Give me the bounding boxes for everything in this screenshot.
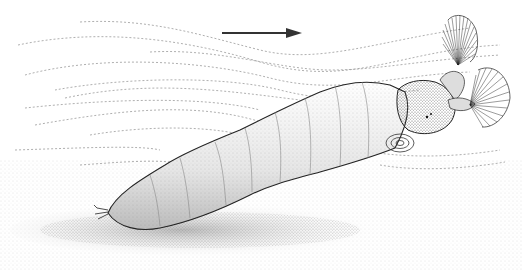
current-direction-arrow (222, 28, 302, 38)
labral-fan-lower (470, 68, 510, 127)
larva-illustration (0, 0, 522, 279)
larva-head (397, 71, 475, 133)
labral-fan-upper (442, 15, 478, 65)
